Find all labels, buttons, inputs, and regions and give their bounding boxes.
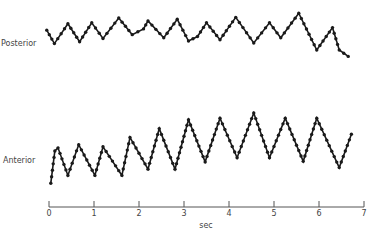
data-point (184, 34, 187, 37)
data-point (211, 138, 214, 141)
data-point (191, 129, 194, 132)
data-point (176, 18, 179, 21)
data-point (72, 31, 75, 34)
data-point (300, 17, 303, 20)
data-point (109, 27, 112, 30)
data-point (244, 134, 247, 137)
data-point (233, 150, 236, 153)
data-point (325, 138, 328, 141)
data-point (69, 27, 72, 30)
x-tick-label: 0 (46, 209, 51, 218)
data-point (250, 117, 253, 120)
data-point (73, 155, 76, 158)
data-point (312, 127, 315, 130)
data-point (199, 30, 202, 33)
data-point (137, 152, 140, 155)
data-point (191, 37, 194, 40)
data-point (307, 33, 310, 36)
data-point (117, 169, 120, 172)
data-point (299, 154, 302, 157)
data-point (94, 26, 97, 29)
data-point (295, 143, 298, 146)
data-point (80, 148, 83, 151)
data-point (221, 122, 224, 125)
data-point (134, 146, 137, 149)
data-point (245, 31, 248, 34)
data-point (162, 138, 165, 141)
chart: 01234567 Posterior Anterior sec (0, 0, 383, 237)
data-point (50, 175, 53, 178)
data-point (338, 166, 341, 169)
data-point (56, 146, 59, 149)
data-point (215, 127, 218, 130)
data-point (241, 26, 244, 29)
data-point (104, 150, 107, 153)
data-point (221, 34, 224, 37)
data-point (203, 160, 206, 163)
data-point (160, 133, 163, 136)
data-point (66, 174, 69, 177)
x-tick-label: 4 (226, 209, 231, 218)
data-point (111, 159, 114, 162)
data-point (218, 117, 221, 120)
data-point (331, 26, 334, 29)
data-point (178, 23, 181, 26)
data-point (283, 31, 286, 34)
data-point (181, 28, 184, 31)
data-point (124, 155, 127, 158)
data-point (64, 168, 67, 171)
data-point (126, 148, 129, 151)
x-tick-label: 1 (91, 209, 96, 218)
data-point (242, 139, 245, 142)
data-point (146, 167, 149, 170)
data-point (199, 150, 202, 153)
data-point (279, 36, 282, 39)
data-point (95, 168, 98, 171)
data-point (284, 117, 287, 120)
data-point (216, 122, 219, 125)
data-point (151, 150, 154, 153)
data-point (235, 156, 238, 159)
data-point (281, 122, 284, 125)
data-point (268, 21, 271, 24)
data-point (290, 21, 293, 24)
data-point (256, 36, 259, 39)
data-point (342, 52, 345, 55)
data-point (310, 38, 313, 41)
data-point (286, 26, 289, 29)
data-point (62, 163, 65, 166)
data-point (181, 140, 184, 143)
data-point (293, 138, 296, 141)
data-point (303, 154, 306, 157)
data-point (87, 26, 90, 29)
data-point (179, 146, 182, 149)
data-point (51, 169, 54, 172)
data-point (60, 157, 63, 160)
data-point (260, 31, 263, 34)
data-point (150, 156, 153, 159)
data-point (91, 169, 94, 172)
data-point (50, 37, 53, 40)
data-point (234, 16, 237, 19)
data-point (197, 144, 200, 147)
data-point (169, 27, 172, 30)
data-point (171, 162, 174, 165)
data-point (195, 139, 198, 142)
data-point (52, 162, 55, 165)
data-point (75, 149, 78, 152)
data-point (150, 23, 153, 26)
data-point (71, 161, 74, 164)
data-point (279, 128, 282, 131)
data-point (114, 164, 117, 167)
data-point (308, 138, 311, 141)
data-point (187, 118, 190, 121)
data-point (218, 38, 221, 41)
data-point (340, 160, 343, 163)
data-point (252, 111, 255, 114)
data-point (164, 144, 167, 147)
data-point (315, 117, 318, 120)
data-point (127, 29, 130, 32)
data-point (333, 155, 336, 158)
data-point (205, 21, 208, 24)
data-point (342, 155, 345, 158)
